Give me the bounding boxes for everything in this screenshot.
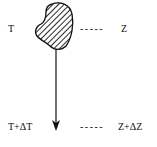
label-t: T: [8, 24, 14, 34]
dash-z-delta: - - - - -: [80, 122, 102, 132]
particle-blob: [36, 3, 73, 49]
label-t-plus-delta-t: T+ΔT: [8, 122, 32, 132]
dash-z: - - - - -: [80, 24, 102, 34]
label-z: Z: [121, 24, 127, 34]
label-z-plus-delta-z: Z+ΔZ: [118, 122, 142, 132]
